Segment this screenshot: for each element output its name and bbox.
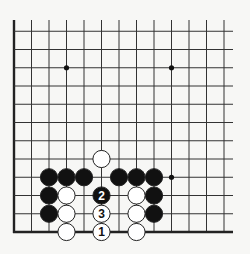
white-stone <box>128 223 145 240</box>
move-number-label: 3 <box>98 207 105 221</box>
white-stone <box>93 150 110 167</box>
black-stone <box>58 169 75 186</box>
star-point-icon <box>169 175 174 180</box>
black-stone <box>40 187 57 204</box>
white-stone <box>58 187 75 204</box>
star-point-icon <box>169 65 174 70</box>
stones-layer: 231 <box>40 150 162 240</box>
white-stone-move-1: 1 <box>93 223 110 240</box>
black-stone <box>40 205 57 222</box>
black-stone <box>145 187 162 204</box>
white-stone-move-3: 3 <box>93 205 110 222</box>
star-point-icon <box>64 65 69 70</box>
black-stone <box>75 169 92 186</box>
black-stone <box>110 169 127 186</box>
black-stone-move-2: 2 <box>93 187 110 204</box>
white-stone <box>128 187 145 204</box>
black-stone <box>145 169 162 186</box>
white-stone <box>128 205 145 222</box>
white-stone <box>58 223 75 240</box>
black-stone <box>145 205 162 222</box>
go-board-diagram: 231 <box>0 0 250 254</box>
white-stone <box>58 205 75 222</box>
black-stone <box>128 169 145 186</box>
black-stone <box>40 169 57 186</box>
move-number-label: 2 <box>98 189 105 203</box>
move-number-label: 1 <box>98 225 105 239</box>
